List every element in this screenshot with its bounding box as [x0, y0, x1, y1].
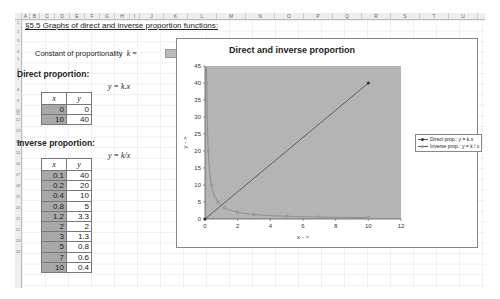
svg-text:8: 8 — [334, 223, 338, 229]
column-header-n[interactable]: N — [246, 13, 275, 19]
y-axis-label: y - > — [182, 136, 188, 148]
row-header-18[interactable]: 18 — [15, 183, 21, 188]
inverse-x-cell[interactable]: 0.4 — [42, 191, 67, 201]
column-header-a[interactable]: A — [22, 13, 30, 19]
svg-text:15: 15 — [194, 165, 201, 171]
direct-x-cell[interactable]: 10 — [42, 115, 67, 125]
row-headers: 123456789101112131415161718192021222324 — [15, 20, 22, 288]
x-axis-label: x - > — [297, 234, 309, 240]
select-all-corner[interactable] — [15, 13, 22, 19]
inverse-x-cell[interactable]: 7 — [42, 252, 67, 262]
inverse-formula: y = k/x — [108, 151, 130, 160]
row-header-1[interactable]: 1 — [15, 20, 21, 25]
column-header-e[interactable]: E — [70, 13, 85, 19]
row-header-8[interactable]: 8 — [15, 87, 21, 92]
legend-item-direct: Direct prop.: y = k.x — [418, 136, 479, 143]
direct-y-cell[interactable]: 0 — [67, 105, 92, 115]
row-header-11[interactable]: 11 — [15, 111, 21, 116]
svg-text:20: 20 — [194, 148, 201, 154]
svg-text:30: 30 — [194, 114, 201, 120]
column-header-k[interactable]: K — [164, 13, 188, 19]
column-header-i[interactable]: I — [130, 13, 140, 19]
inverse-y-cell[interactable]: 0.8 — [67, 242, 92, 252]
inverse-x-cell[interactable]: 0.1 — [42, 171, 67, 181]
inverse-y-cell[interactable]: 1.3 — [67, 232, 92, 242]
svg-text:10: 10 — [194, 182, 201, 188]
direct-header-x: x — [42, 93, 67, 105]
inverse-x-cell[interactable]: 10 — [42, 262, 67, 272]
direct-formula: y = k.x — [108, 82, 130, 91]
column-header-q[interactable]: Q — [333, 13, 362, 19]
column-header-j[interactable]: J — [140, 13, 164, 19]
legend-inverse-marker-icon — [418, 146, 428, 147]
svg-text:0: 0 — [203, 223, 207, 229]
direct-header-y: y — [67, 93, 92, 105]
column-header-r[interactable]: R — [362, 13, 391, 19]
inverse-x-cell[interactable]: 1.2 — [42, 211, 67, 221]
row-header-16[interactable]: 16 — [15, 161, 21, 166]
row-header-4[interactable]: 4 — [15, 49, 21, 54]
inverse-y-cell[interactable]: 2 — [67, 221, 92, 231]
row-header-3[interactable]: 3 — [15, 38, 21, 43]
row-header-23[interactable]: 23 — [15, 238, 21, 243]
legend-item-inverse: Inverse prop.: y = k / x — [418, 143, 479, 150]
chart-object[interactable]: Direct and inverse proportion 0510152025… — [176, 38, 478, 248]
svg-text:35: 35 — [194, 97, 201, 103]
direct-x-cell[interactable]: 0 — [42, 105, 67, 115]
svg-text:2: 2 — [236, 223, 240, 229]
column-header-g[interactable]: G — [100, 13, 115, 19]
column-headers: ABCDEFGHIJKLMNOPQRSTU — [15, 13, 485, 20]
inverse-y-cell[interactable]: 40 — [67, 171, 92, 181]
legend-direct-label: Direct prop.: y = k.x — [430, 136, 473, 143]
column-header-l[interactable]: L — [188, 13, 217, 19]
inverse-y-cell[interactable]: 10 — [67, 191, 92, 201]
inverse-table: x y 0.140 0.220 0.410 0.85 1.23.3 22 31.… — [41, 158, 92, 273]
column-header-h[interactable]: H — [115, 13, 130, 19]
column-header-u[interactable]: U — [449, 13, 478, 19]
inverse-heading: Inverse proportion: — [17, 138, 95, 148]
row-header-13[interactable]: 13 — [15, 128, 21, 133]
inverse-y-cell[interactable]: 20 — [67, 181, 92, 191]
row-header-15[interactable]: 15 — [15, 150, 21, 155]
chart-plot-area: 051015202530354045024681012x - >y - > — [177, 59, 407, 249]
svg-text:12: 12 — [398, 223, 405, 229]
row-header-19[interactable]: 19 — [15, 194, 21, 199]
column-header-o[interactable]: O — [275, 13, 304, 19]
row-header-5[interactable]: 5 — [15, 56, 21, 61]
inverse-x-cell[interactable]: 5 — [42, 242, 67, 252]
inverse-x-cell[interactable]: 0.2 — [42, 181, 67, 191]
sheet-title: §5.5 Graphs of direct and inverse propor… — [25, 21, 218, 30]
row-header-22[interactable]: 22 — [15, 227, 21, 232]
inverse-y-cell[interactable]: 3.3 — [67, 211, 92, 221]
column-header-s[interactable]: S — [391, 13, 420, 19]
direct-y-cell[interactable]: 40 — [67, 115, 92, 125]
column-header-t[interactable]: T — [420, 13, 449, 19]
chart-title: Direct and inverse proportion — [177, 45, 407, 55]
row-header-9[interactable]: 9 — [15, 98, 21, 103]
inverse-x-cell[interactable]: 0.8 — [42, 201, 67, 211]
row-header-2[interactable]: 2 — [15, 29, 21, 34]
column-header-p[interactable]: P — [304, 13, 333, 19]
column-header-f[interactable]: F — [85, 13, 100, 19]
svg-text:0: 0 — [198, 216, 202, 222]
chart-legend: Direct prop.: y = k.x Inverse prop.: y =… — [415, 134, 482, 152]
inverse-y-cell[interactable]: 5 — [67, 201, 92, 211]
inverse-y-cell[interactable]: 0.4 — [67, 262, 92, 272]
inverse-header-y: y — [67, 159, 92, 171]
inverse-y-cell[interactable]: 0.6 — [67, 252, 92, 262]
row-header-20[interactable]: 20 — [15, 205, 21, 210]
inverse-header-x: x — [42, 159, 67, 171]
inverse-x-cell[interactable]: 2 — [42, 221, 67, 231]
svg-text:25: 25 — [194, 131, 201, 137]
row-header-24[interactable]: 24 — [15, 249, 21, 254]
row-header-17[interactable]: 17 — [15, 172, 21, 177]
inverse-x-cell[interactable]: 3 — [42, 232, 67, 242]
column-header-b[interactable]: B — [30, 13, 40, 19]
column-header-c[interactable]: C — [40, 13, 55, 19]
legend-direct-marker-icon — [418, 139, 428, 140]
direct-table: x y 0 0 10 40 — [41, 92, 92, 125]
column-header-d[interactable]: D — [55, 13, 70, 19]
row-header-12[interactable]: 12 — [15, 117, 21, 122]
column-header-m[interactable]: M — [217, 13, 246, 19]
row-header-21[interactable]: 21 — [15, 216, 21, 221]
